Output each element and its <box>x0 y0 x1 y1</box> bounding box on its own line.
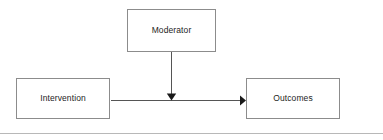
node-outcomes[interactable]: Outcomes <box>246 78 340 119</box>
edge-moderator-to-path <box>167 52 176 101</box>
node-moderator-label: Moderator <box>152 26 192 35</box>
node-outcomes-label: Outcomes <box>273 94 313 103</box>
footer-divider <box>0 133 383 134</box>
node-intervention[interactable]: Intervention <box>16 78 110 119</box>
node-intervention-label: Intervention <box>40 94 86 103</box>
node-moderator[interactable]: Moderator <box>127 9 216 52</box>
edge-intervention-to-outcomes <box>111 96 247 106</box>
diagram-canvas: Moderator Intervention Outcomes <box>0 0 383 140</box>
